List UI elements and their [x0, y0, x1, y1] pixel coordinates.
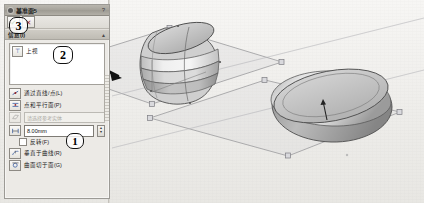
option-row-point-parallel[interactable]: 点和平行面(P) — [5, 99, 109, 111]
option-row-reference-entity[interactable]: 请选择参考实体 — [5, 111, 109, 123]
reference-entity-input[interactable]: 请选择参考实体 — [24, 112, 105, 123]
spinner-down-icon[interactable]: ▼ — [99, 131, 102, 135]
plane-reference-icon: ⊤ — [12, 46, 23, 57]
callout-1: 1 — [66, 133, 84, 149]
option-label-point-parallel: 点和平行面(P) — [24, 101, 61, 109]
panel-resize-grip[interactable] — [104, 75, 109, 121]
line-point-icon — [9, 88, 21, 99]
selection-value: 上视 — [26, 47, 38, 55]
flip-label: 反转(F) — [30, 138, 49, 146]
callout-3: 3 — [9, 17, 28, 34]
barrel-body[interactable] — [140, 16, 221, 104]
point-parallel-icon — [9, 100, 21, 111]
parallel-plane-icon — [9, 112, 21, 123]
option-row-surface-tangent[interactable]: 曲面切于面(G) — [5, 159, 109, 171]
perpendicular-curve-icon — [9, 148, 21, 159]
flip-direction-row[interactable]: 反转(F) — [5, 137, 109, 147]
app-window: 基准面5 ? ✔ ✕ 信息(I) ▲ ⊤ 上视 通过直线/点(L) — [0, 0, 424, 203]
spinner-stepper[interactable]: ▲ ▼ — [97, 125, 105, 137]
panel-titlebar[interactable]: 基准面5 ? — [5, 5, 109, 16]
option-label-line-point: 通过直线/点(L) — [24, 89, 62, 97]
callout-2: 2 — [53, 46, 73, 64]
chevron-up-icon[interactable]: ▲ — [101, 32, 106, 38]
option-label-perpendicular-curve: 垂直于曲线(R) — [24, 149, 62, 157]
help-icon[interactable]: ? — [102, 7, 106, 13]
offset-distance-icon — [9, 125, 21, 136]
option-label-surface-tangent: 曲面切于面(G) — [24, 161, 62, 169]
flip-checkbox[interactable] — [19, 138, 27, 146]
option-row-perpendicular-curve[interactable]: 垂直于曲线(R) — [5, 147, 109, 159]
offset-distance-row[interactable]: 8.00mm ▲ ▼ — [5, 124, 109, 137]
surface-tangent-icon — [9, 160, 21, 171]
option-row-line-point[interactable]: 通过直线/点(L) — [5, 87, 109, 99]
offset-distance-input[interactable]: 8.00mm — [24, 125, 94, 137]
pin-icon[interactable] — [8, 8, 13, 13]
panel-title: 基准面5 — [16, 6, 99, 15]
